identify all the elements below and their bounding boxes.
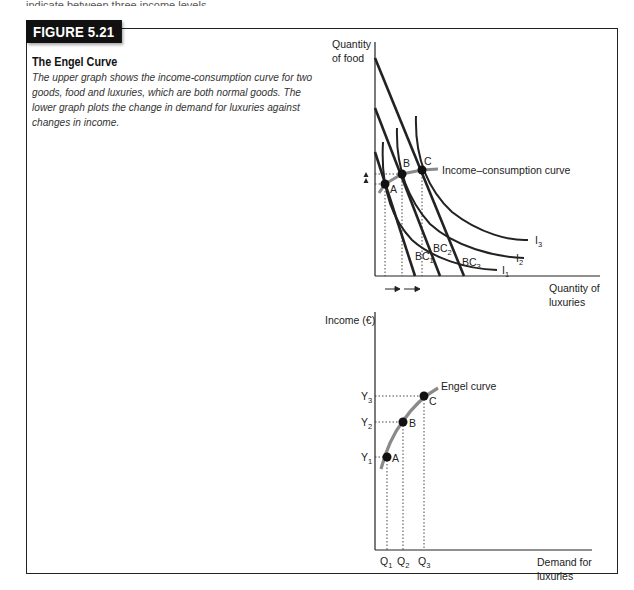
x-shift-arrows <box>385 287 420 292</box>
lower-point-c-label: C <box>429 395 437 407</box>
indifference-curve-i3 <box>416 116 528 240</box>
i3-label: I3 <box>535 234 542 249</box>
arrow-right-icon <box>415 287 420 292</box>
upper-point-b-label: B <box>403 157 410 169</box>
lower-graph: Income (€) Demand for luxuries A B C Eng… <box>325 312 592 582</box>
lower-guide-lines <box>375 396 424 550</box>
y-shift-arrows <box>364 172 369 183</box>
lower-point-a <box>383 453 392 462</box>
q3-tick-label: Q3 <box>418 555 430 570</box>
q1-tick-label: Q1 <box>380 555 392 570</box>
upper-point-a <box>381 180 390 189</box>
upper-x-axis-label-line2: luxuries <box>549 296 585 308</box>
lower-point-a-label: A <box>392 452 399 464</box>
upper-point-a-label: A <box>390 183 397 195</box>
y3-tick-label: Y3 <box>361 390 372 405</box>
i2-label: I2 <box>516 252 523 267</box>
engel-curve-label: Engel curve <box>441 380 497 392</box>
lower-point-b-label: B <box>409 417 416 429</box>
upper-point-c-label: C <box>424 155 432 167</box>
bc3-label: BC3 <box>462 256 481 271</box>
upper-x-axis-label-line1: Quantity of <box>549 282 600 294</box>
y2-tick-label: Y2 <box>361 416 372 431</box>
lower-y-axis-label: Income (€) <box>325 314 375 326</box>
lower-x-axis-label-line2: luxuries <box>537 570 573 582</box>
income-consumption-label: Income–consumption curve <box>442 164 571 176</box>
upper-point-b <box>398 170 407 179</box>
upper-y-axis-label-line2: of food <box>332 52 364 64</box>
arrow-up-icon <box>364 178 369 183</box>
arrow-up-icon <box>364 172 369 177</box>
engel-curve-chart: Quantity of food Quantity of luxuries <box>0 0 634 590</box>
arrow-right-icon <box>395 287 400 292</box>
upper-y-axis-label-line1: Quantity <box>332 38 372 50</box>
lower-point-c <box>420 392 429 401</box>
y1-tick-label: Y1 <box>361 451 372 466</box>
lower-point-b <box>399 418 408 427</box>
q2-tick-label: Q2 <box>397 555 409 570</box>
upper-graph: Quantity of food Quantity of luxuries <box>332 38 600 308</box>
i1-label: I1 <box>502 264 509 279</box>
lower-x-axis-label-line1: Demand for <box>537 556 592 568</box>
